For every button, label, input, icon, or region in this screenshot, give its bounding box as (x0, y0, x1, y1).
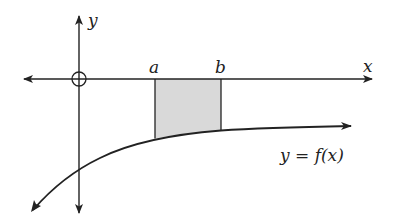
diagram-svg: y x a b y = f(x) (0, 0, 394, 216)
x-axis-label: x (363, 56, 373, 76)
shaded-region (155, 79, 221, 139)
bound-a-label: a (149, 57, 159, 77)
bound-b-label: b (215, 57, 226, 77)
diagram-canvas: y x a b y = f(x) (0, 0, 394, 216)
curve-f (33, 126, 351, 210)
y-axis-label: y (87, 10, 98, 30)
curve-label: y = f(x) (279, 145, 344, 165)
